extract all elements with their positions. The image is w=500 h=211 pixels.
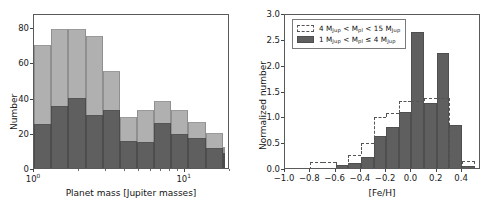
y-tick-label: 0 bbox=[9, 165, 29, 174]
left-plot-area bbox=[33, 14, 229, 169]
legend-label-dashed: 4 MJup < Mpl < 15 MJup bbox=[319, 24, 400, 33]
bar-sub bbox=[188, 138, 205, 168]
legend-label-solid: 1 MJup < Mpl ≤ 4 MJup bbox=[319, 35, 396, 44]
y-tick-mark bbox=[281, 14, 284, 15]
bar-sub bbox=[103, 110, 120, 168]
x-tick-mark bbox=[436, 169, 437, 172]
legend-entry-dashed: 4 MJup < Mpl < 15 MJup bbox=[297, 23, 400, 34]
step-segment-vertical bbox=[399, 101, 400, 113]
step-segment-horizontal bbox=[386, 113, 399, 114]
x-tick-mark bbox=[309, 169, 310, 172]
figure-container: 020406080 100101 Planet mass [Jupiter ma… bbox=[0, 0, 500, 211]
x-tick-mark-minor bbox=[105, 169, 106, 171]
step-segment-vertical bbox=[462, 161, 463, 168]
left-histogram-bars bbox=[34, 15, 228, 168]
step-segment-vertical bbox=[449, 98, 450, 168]
x-tick-mark bbox=[385, 169, 386, 172]
step-segment-horizontal bbox=[399, 101, 412, 102]
x-tick-mark-minor bbox=[160, 169, 161, 171]
left-panel: 020406080 100101 Planet mass [Jupiter ma… bbox=[0, 0, 250, 211]
bar-sub bbox=[171, 134, 188, 168]
legend-entry-solid: 1 MJup < Mpl ≤ 4 MJup bbox=[297, 34, 400, 45]
legend-swatch-solid-icon bbox=[297, 36, 314, 43]
left-y-axis-title: Number bbox=[9, 94, 19, 130]
bar-sub bbox=[68, 98, 85, 168]
x-tick-mark-minor bbox=[78, 169, 79, 171]
y-tick-mark bbox=[30, 28, 33, 29]
step-segment-horizontal bbox=[437, 98, 450, 99]
x-tick-mark bbox=[360, 169, 361, 172]
step-segment-vertical bbox=[374, 117, 375, 143]
x-tick-mark-minor bbox=[150, 169, 151, 171]
step-segment-horizontal bbox=[323, 162, 336, 163]
step-segment-vertical bbox=[386, 113, 387, 117]
x-tick-label: 101 bbox=[169, 174, 199, 183]
bar-sub bbox=[120, 141, 137, 168]
y-tick-label: 3.0 bbox=[258, 10, 280, 19]
step-segment-vertical bbox=[424, 98, 425, 101]
step-segment-vertical bbox=[336, 162, 337, 168]
bar-sub bbox=[206, 148, 223, 168]
step-segment-horizontal bbox=[348, 155, 361, 156]
x-tick-mark bbox=[284, 169, 285, 172]
y-tick-mark bbox=[281, 66, 284, 67]
x-tick-mark bbox=[33, 169, 34, 172]
bar-sub bbox=[86, 115, 103, 168]
x-tick-mark-minor bbox=[124, 169, 125, 171]
step-segment-horizontal bbox=[374, 117, 387, 118]
y-tick-label: 80 bbox=[9, 24, 29, 33]
y-tick-mark bbox=[30, 63, 33, 64]
y-tick-mark bbox=[281, 92, 284, 93]
x-tick-mark bbox=[461, 169, 462, 172]
bar-sub bbox=[51, 106, 68, 168]
x-tick-label: 100 bbox=[18, 174, 48, 183]
x-tick-mark-minor bbox=[229, 169, 230, 171]
y-tick-label: 20 bbox=[9, 130, 29, 139]
bar-sub bbox=[34, 124, 51, 168]
bar-sub bbox=[223, 153, 225, 168]
left-x-axis-title: Planet mass [Jupiter masses] bbox=[33, 188, 229, 198]
y-tick-mark bbox=[281, 117, 284, 118]
y-tick-mark bbox=[281, 40, 284, 41]
y-tick-label: 2.5 bbox=[258, 36, 280, 45]
step-segment-horizontal bbox=[424, 98, 437, 99]
step-segment-vertical bbox=[474, 161, 475, 168]
bar-sub bbox=[154, 123, 171, 168]
legend: 4 MJup < Mpl < 15 MJup 1 MJup < Mpl ≤ 4 … bbox=[292, 19, 406, 49]
right-panel: 4 MJup < Mpl < 15 MJup 1 MJup < Mpl ≤ 4 … bbox=[250, 0, 500, 211]
x-tick-mark-minor bbox=[177, 169, 178, 171]
bar-sub bbox=[137, 142, 154, 168]
y-tick-mark bbox=[281, 143, 284, 144]
x-tick-label: 0.4 bbox=[446, 174, 476, 183]
x-tick-mark-minor bbox=[138, 169, 139, 171]
x-tick-mark bbox=[184, 169, 185, 172]
y-tick-label: 60 bbox=[9, 59, 29, 68]
x-tick-mark-minor bbox=[169, 169, 170, 171]
y-tick-mark bbox=[30, 99, 33, 100]
step-segment-horizontal bbox=[411, 101, 424, 102]
step-segment-vertical bbox=[310, 162, 311, 168]
x-tick-mark bbox=[410, 169, 411, 172]
legend-swatch-dashed-icon bbox=[297, 25, 314, 32]
step-segment-horizontal bbox=[361, 143, 374, 144]
step-segment-vertical bbox=[348, 155, 349, 169]
right-x-axis-title: [Fe/H] bbox=[284, 188, 480, 198]
step-segment-horizontal bbox=[310, 162, 323, 163]
step-segment-vertical bbox=[361, 143, 362, 154]
right-y-axis-title: Normalized number bbox=[258, 61, 268, 150]
x-tick-mark bbox=[335, 169, 336, 172]
y-tick-mark bbox=[30, 134, 33, 135]
